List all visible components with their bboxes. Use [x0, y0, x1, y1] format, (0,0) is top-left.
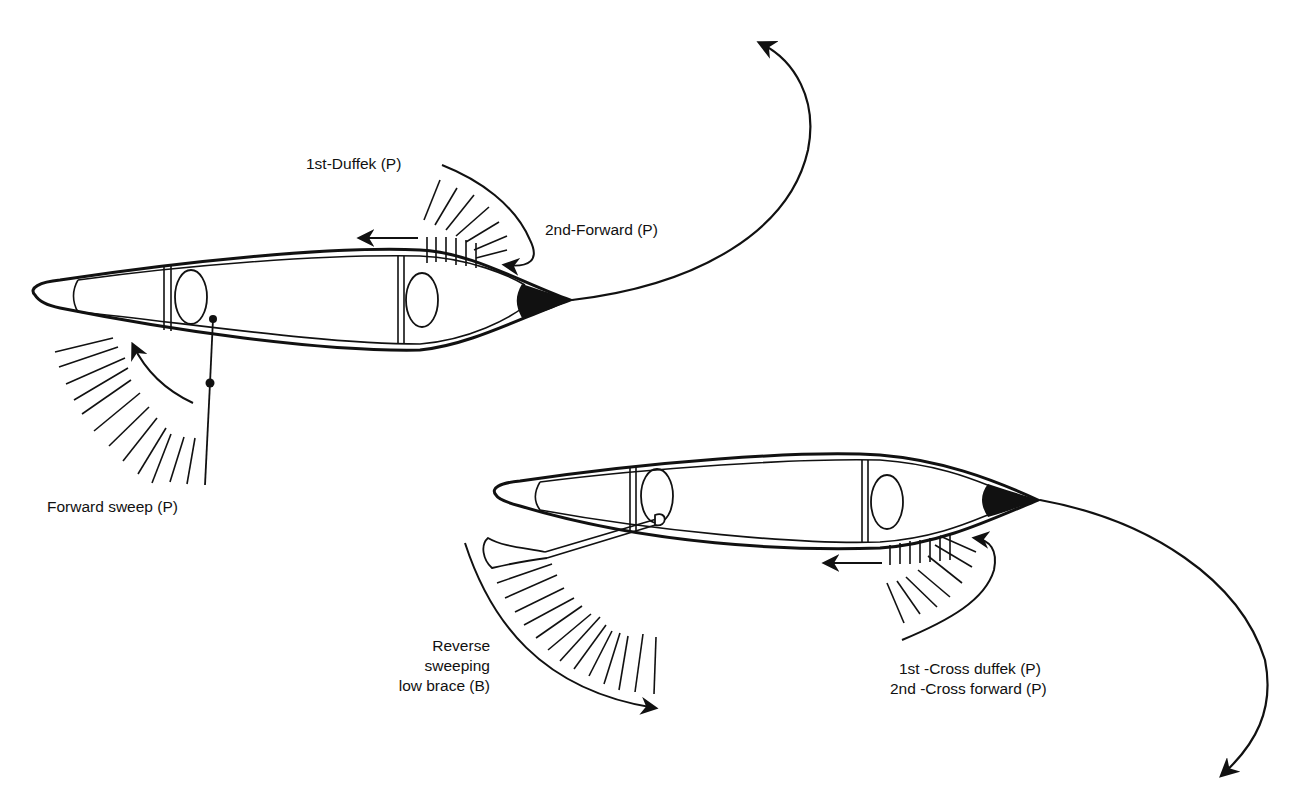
label-reverse-line1: Reverse: [380, 636, 490, 656]
label-forward: 2nd-Forward (P): [545, 220, 658, 240]
top-canoe-turn-path: [572, 43, 810, 300]
reverse-sweep-lines: [497, 564, 656, 694]
seat-bow: [175, 270, 207, 324]
label-forward-sweep: Forward sweep (P): [47, 497, 178, 517]
label-cross-strokes: 1st -Cross duffek (P) 2nd -Cross forward…: [890, 659, 1047, 699]
bottom-canoe-turn-path: [1040, 500, 1268, 775]
canoe-top: [33, 249, 572, 485]
canoe-bottom: [483, 454, 1040, 568]
forward-sweep-arrow: [133, 345, 193, 403]
label-cross-line1: 1st -Cross duffek (P): [890, 659, 1047, 679]
seat-stern-bottom: [871, 475, 903, 529]
forward-sweep-lines: [55, 338, 195, 484]
paddle-icon: [483, 514, 664, 568]
duffek-stroke-lines: [424, 180, 507, 268]
label-reverse-line3: low brace (B): [380, 676, 490, 696]
seat-stern: [406, 273, 438, 327]
canoe-bottom-hull: [494, 454, 1038, 549]
label-cross-line2: 2nd -Cross forward (P): [890, 679, 1047, 699]
canoe-strokes-diagram: [0, 0, 1300, 798]
canoe-top-hull: [33, 249, 570, 350]
label-reverse-line2: sweeping: [380, 656, 490, 676]
label-reverse-sweep: Reverse sweeping low brace (B): [380, 636, 490, 696]
label-duffek: 1st-Duffek (P): [306, 154, 401, 174]
